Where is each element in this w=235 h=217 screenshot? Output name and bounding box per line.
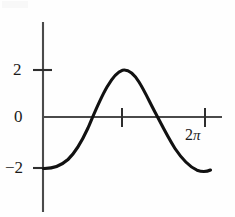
pi-symbol: π [193,127,201,143]
x-axis-label-2pi: 2π [185,127,201,143]
curve-negative-two-cosine [44,70,211,172]
plot-area [0,0,235,217]
y-axis-label-0: 0 [14,108,23,125]
figure-container: 2 0 −2 2π [0,0,235,217]
y-axis-label-2: 2 [13,61,22,78]
y-axis-label-minus-2: −2 [5,159,23,176]
x-axis-label-2pi-number: 2 [185,126,193,143]
